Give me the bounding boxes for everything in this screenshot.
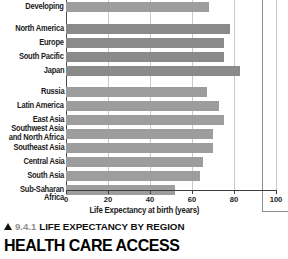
x-tick-40	[150, 190, 151, 194]
category-label: South Asia	[27, 172, 64, 181]
x-tick-0	[66, 190, 67, 194]
x-tick-label-100: 100	[270, 195, 283, 204]
section-heading: HEALTH CARE ACCESS	[4, 236, 185, 255]
bar-row	[66, 2, 276, 12]
bar-row	[66, 129, 276, 139]
category-label: Central Asia	[23, 158, 64, 167]
x-tick-label-80: 80	[230, 195, 238, 204]
bar-row	[66, 87, 276, 97]
bar	[66, 129, 213, 139]
category-label: East Asia	[32, 116, 64, 125]
x-tick-label-0: 0	[64, 195, 68, 204]
bar-row	[66, 115, 276, 125]
x-tick-label-40: 40	[146, 195, 154, 204]
category-label: Japan	[43, 67, 64, 76]
x-tick-20	[108, 190, 109, 194]
x-tick-100	[276, 190, 277, 194]
bar-row	[66, 24, 276, 34]
bar-row	[66, 66, 276, 76]
life-expectancy-bar-chart: Life Expectancy at birth (years) 0204060…	[0, 0, 288, 215]
x-tick-label-20: 20	[104, 195, 112, 204]
figure-page: Life Expectancy at birth (years) 0204060…	[0, 0, 288, 259]
bar	[66, 66, 240, 76]
bar-row	[66, 52, 276, 62]
category-label: Latin America	[17, 102, 64, 111]
x-tick-80	[234, 190, 235, 194]
category-label: Southwest Asia and North Africa	[9, 125, 64, 142]
category-label: South Pacific	[19, 53, 64, 62]
bar-row	[66, 157, 276, 167]
bar	[66, 171, 200, 181]
bar-row	[66, 101, 276, 111]
bar-row	[66, 171, 276, 181]
category-label: Southeast Asia	[13, 144, 64, 153]
gridline-100	[276, 0, 277, 190]
bar-row	[66, 143, 276, 153]
bar	[66, 87, 207, 97]
x-axis-title: Life Expectancy at birth (years)	[0, 205, 288, 215]
plot-area	[66, 0, 276, 190]
category-label: Russia	[41, 88, 64, 97]
bar	[66, 38, 224, 48]
x-tick-label-60: 60	[188, 195, 196, 204]
bar	[66, 115, 224, 125]
figure-caption-title: LIFE EXPECTANCY BY REGION	[39, 221, 184, 232]
bar	[66, 143, 213, 153]
bar	[66, 2, 209, 12]
bar	[66, 24, 230, 34]
category-label: North America	[15, 25, 64, 34]
category-label: Developing	[26, 3, 64, 12]
bar-row	[66, 38, 276, 48]
x-axis-title-text: Life Expectancy at birth (years)	[89, 205, 199, 215]
section-heading-text: HEALTH CARE ACCESS	[4, 236, 179, 255]
figure-caption: 9.4.1 LIFE EXPECTANCY BY REGION	[4, 221, 184, 232]
figure-number: 9.4.1	[15, 221, 36, 232]
x-axis-line	[66, 190, 277, 191]
bar	[66, 157, 203, 167]
bar	[66, 52, 224, 62]
x-tick-60	[192, 190, 193, 194]
category-label: Sub-Saharan Africa	[5, 186, 64, 203]
category-label: Europe	[39, 39, 64, 48]
bar	[66, 101, 219, 111]
triangle-up-icon	[4, 223, 12, 230]
